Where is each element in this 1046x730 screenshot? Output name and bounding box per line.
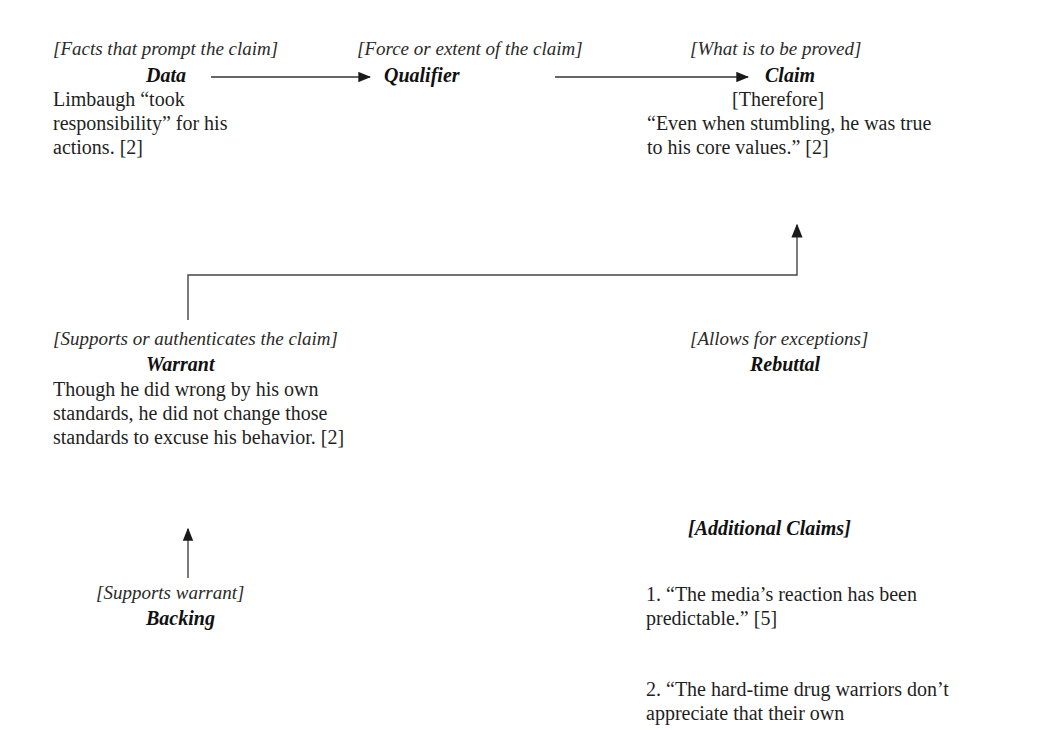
claim-title: Claim — [765, 64, 815, 87]
qualifier-title: Qualifier — [384, 64, 460, 87]
additional-claims-title: [Additional Claims] — [688, 517, 851, 540]
backing-title: Backing — [146, 607, 215, 630]
qualifier-subtitle: [Force or extent of the claim] — [357, 38, 583, 60]
claim-connector: [Therefore] — [732, 87, 824, 111]
claim-subtitle: [What is to be proved] — [690, 38, 861, 60]
data-text: Limbaugh “took responsibility” for his a… — [53, 87, 293, 159]
warrant-subtitle: [Supports or authenticates the claim] — [53, 328, 338, 350]
warrant-text: Though he did wrong by his own standards… — [53, 377, 398, 449]
rebuttal-title: Rebuttal — [750, 353, 820, 376]
claim-text: “Even when stumbling, he was true to his… — [647, 111, 947, 159]
additional-claim-item: 1. “The media’s reaction has been predic… — [646, 582, 996, 630]
warrant-title: Warrant — [146, 353, 215, 376]
additional-claim-item: 2. “The hard-time drug warriors don’t ap… — [646, 677, 966, 725]
data-subtitle: [Facts that prompt the claim] — [53, 38, 278, 60]
data-title: Data — [146, 64, 186, 87]
arrow-warrant-to-claim — [188, 225, 797, 320]
backing-subtitle: [Supports warrant] — [96, 582, 244, 604]
rebuttal-subtitle: [Allows for exceptions] — [690, 328, 868, 350]
